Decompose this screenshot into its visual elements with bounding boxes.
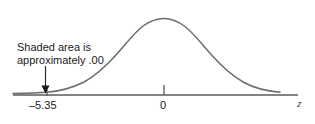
tick-label-zero: 0 <box>160 99 166 111</box>
shaded-area-annotation: Shaded area is approximately .00 <box>17 41 127 66</box>
annotation-line-1: Shaded area is <box>17 41 127 54</box>
axis-label-z: z <box>297 99 302 109</box>
tick-label-neg535: –5.35 <box>29 99 57 111</box>
normal-distribution-figure: Shaded area is approximately .00 –5.35 0… <box>0 0 315 124</box>
annotation-line-2: approximately .00 <box>17 54 127 67</box>
